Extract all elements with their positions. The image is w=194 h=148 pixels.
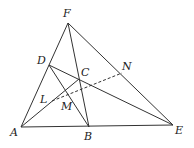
label-F: F xyxy=(63,8,71,19)
geometry-figure: F D C N L M A B E xyxy=(0,0,194,148)
figure-lines xyxy=(0,0,194,148)
label-M: M xyxy=(61,101,72,112)
segment-AE xyxy=(21,125,173,127)
label-A: A xyxy=(10,127,18,138)
label-N: N xyxy=(122,61,132,72)
label-D: D xyxy=(37,55,46,66)
label-C: C xyxy=(81,67,89,78)
label-B: B xyxy=(84,131,92,142)
label-E: E xyxy=(175,125,183,136)
label-L: L xyxy=(40,94,47,105)
